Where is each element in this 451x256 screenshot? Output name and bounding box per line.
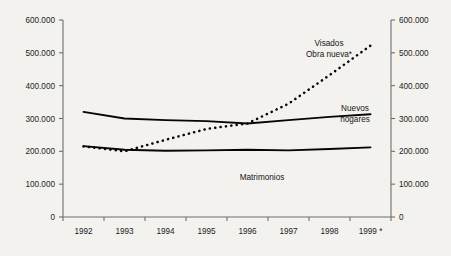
y-axis-label-left: 200.000: [25, 147, 55, 156]
x-axis-label: 1999 *: [359, 227, 383, 236]
annotation-line-1: Visados: [315, 39, 344, 48]
y-axis-label-left: 600.000: [25, 16, 55, 25]
y-axis-label-left: 100.000: [25, 180, 55, 189]
x-axis-label: 1993: [115, 227, 134, 236]
line-chart: 600.000600.000500.000500.000400.000400.0…: [0, 0, 451, 256]
x-axis-label: 1996: [238, 227, 257, 236]
y-axis-label-left: 500.000: [25, 49, 55, 58]
x-axis-label: 1997: [279, 227, 298, 236]
y-axis-label-right: 600.000: [399, 16, 429, 25]
x-axis-label: 1998: [320, 227, 339, 236]
y-axis-label-left: 400.000: [25, 82, 55, 91]
y-axis-label-left: 0: [50, 213, 55, 222]
annotation-line-1: Matrimonios: [240, 173, 285, 182]
y-axis-label-right: 400.000: [399, 82, 429, 91]
series-line-visados-obra-nueva: [84, 46, 371, 152]
series-line-matrimonios: [84, 146, 371, 151]
annotation-line-2: hogares: [340, 115, 370, 124]
annotation-visados: VisadosObra nueva*: [306, 39, 353, 59]
y-axis-label-right: 200.000: [399, 147, 429, 156]
x-axis-label: 1994: [156, 227, 175, 236]
annotation-line-2: Obra nueva*: [306, 50, 353, 59]
chart-container: 600.000600.000500.000500.000400.000400.0…: [0, 0, 451, 256]
x-axis-label: 1992: [74, 227, 93, 236]
y-axis-label-right: 500.000: [399, 49, 429, 58]
x-axis-label: 1995: [197, 227, 216, 236]
y-axis-label-right: 100.000: [399, 180, 429, 189]
y-axis-label-right: 300.000: [399, 115, 429, 124]
annotation-line-1: Nuevos: [341, 104, 369, 113]
y-axis-label-right: 0: [399, 213, 404, 222]
y-axis-label-left: 300.000: [25, 115, 55, 124]
annotation-matrimonios: Matrimonios: [240, 173, 285, 182]
series-line-nuevos-hogares: [84, 112, 371, 124]
